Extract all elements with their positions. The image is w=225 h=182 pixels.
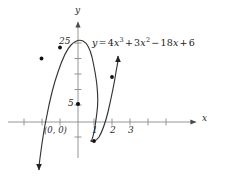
y-axis-label: y: [75, 6, 80, 15]
data-point: [110, 75, 114, 79]
equation-operator-2: −: [150, 37, 160, 48]
data-point: [40, 57, 44, 61]
data-point: [58, 46, 62, 50]
x-axis: [8, 119, 196, 126]
equation-lhs: y: [92, 37, 98, 48]
origin-label: (0, 0): [44, 126, 67, 135]
equation-operator-3: +: [178, 37, 188, 48]
data-point: [92, 139, 96, 143]
equation-term4: 6: [189, 37, 195, 48]
y-tick-label-25: 25: [59, 37, 70, 46]
x-tick-label-1: 1: [92, 126, 98, 135]
plot-canvas: [0, 0, 225, 182]
equation-annotation: y=4x3+3x2−18x+6: [92, 38, 195, 48]
graph-figure: y x 25 5 1 2 3 (0, 0) y=4x3+3x2−18x+6: [0, 0, 225, 182]
x-tick-label-3: 3: [128, 126, 134, 135]
equation-term3-coef: 18: [160, 37, 173, 48]
equation-equals: =: [98, 37, 108, 48]
equation-operator-1: +: [124, 37, 134, 48]
x-tick-label-2: 2: [110, 126, 116, 135]
x-axis-label: x: [202, 114, 207, 123]
data-point: [76, 102, 80, 106]
y-axis: [75, 22, 82, 158]
y-tick-label-5: 5: [68, 99, 74, 108]
